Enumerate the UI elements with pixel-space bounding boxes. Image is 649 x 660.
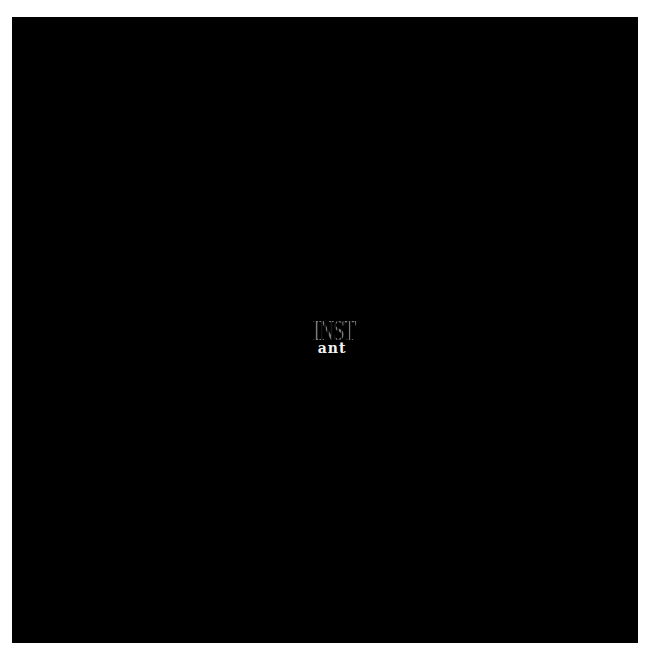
black-panel: INST ant [12, 17, 638, 643]
instant-logo: INST ant [299, 317, 375, 367]
logo-top-text: INST [304, 317, 363, 343]
